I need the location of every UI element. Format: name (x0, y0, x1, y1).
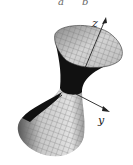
z-axis-label: z (91, 17, 98, 30)
y-axis-arrowhead-icon (102, 106, 110, 112)
y-axis-label: y (97, 114, 105, 127)
lower-nappe (18, 88, 85, 156)
z-axis-arrowhead-icon (102, 17, 107, 24)
hyperboloid-figure: z y (0, 0, 133, 165)
